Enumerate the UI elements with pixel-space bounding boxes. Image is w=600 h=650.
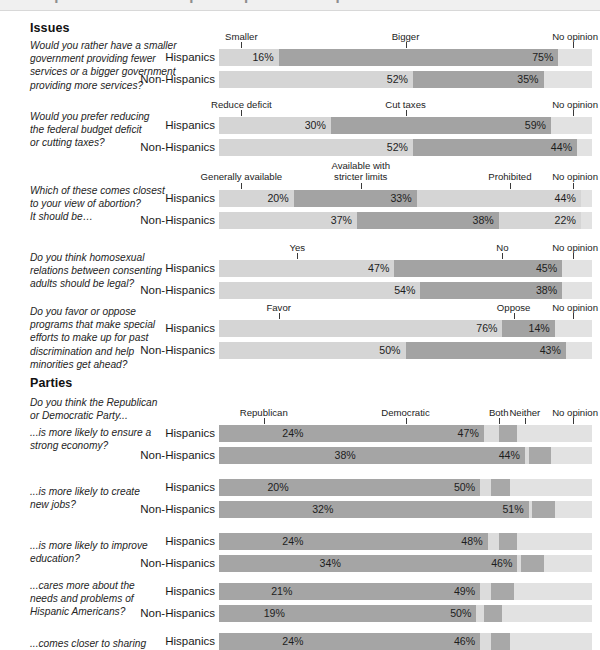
- column-header-label: Democratic: [381, 407, 430, 418]
- bar-segment: [517, 533, 592, 550]
- bar-value-label: 35%: [517, 71, 538, 88]
- group-label-hispanics: Hispanics: [75, 320, 215, 337]
- axis-tick: [514, 313, 515, 319]
- column-header-label: Generally available: [201, 171, 283, 182]
- bar-segment: [491, 479, 510, 496]
- stacked-bar: 24%47%: [219, 425, 592, 442]
- column-header-label: Bigger: [392, 31, 420, 42]
- stacked-bar: 20%50%: [219, 479, 592, 496]
- bar-segment: 52%: [219, 139, 413, 156]
- bar-segment: [510, 633, 592, 650]
- bar-segment: 47%: [219, 260, 394, 277]
- bar-segment: [577, 139, 592, 156]
- bar-segment: [532, 501, 554, 518]
- bar-segment: 19%: [219, 605, 290, 622]
- bar-segment: [544, 555, 592, 572]
- stacked-bar: 76%14%: [219, 320, 592, 337]
- bar-value-label: 52%: [387, 71, 408, 88]
- bar-segment: [480, 633, 491, 650]
- bar-segment: 32%: [219, 501, 338, 518]
- column-header-label: Both: [489, 407, 509, 418]
- bar-value-label: 38%: [335, 447, 356, 464]
- bar-value-label: 46%: [454, 633, 475, 650]
- parties-intro-question: Do you think the Republicanor Democratic…: [30, 396, 215, 422]
- bar-value-label: 38%: [473, 212, 494, 229]
- stacked-bar: 16%75%: [219, 49, 592, 66]
- axis-tick: [406, 418, 407, 424]
- bar-value-label: 14%: [528, 320, 549, 337]
- bar-segment: 45%: [394, 260, 562, 277]
- group-label-hispanics: Hispanics: [75, 49, 215, 66]
- stacked-bar: 37%38%22%: [219, 212, 592, 229]
- axis-tick: [406, 42, 407, 48]
- group-label-hispanics: Hispanics: [75, 425, 215, 442]
- stacked-bar: 20%33%44%: [219, 190, 592, 207]
- bar-value-label: 76%: [476, 320, 497, 337]
- column-header-label: No opinion: [552, 407, 598, 418]
- stacked-bar: 54%38%: [219, 282, 592, 299]
- bar-segment: 50%: [290, 605, 477, 622]
- bar-value-label: 33%: [390, 190, 411, 207]
- group-label-non-hispanics: Non-Hispanics: [75, 605, 215, 622]
- bar-segment: [502, 605, 592, 622]
- bar-value-label: 24%: [282, 633, 303, 650]
- bar-segment: 16%: [219, 49, 279, 66]
- bar-segment: [476, 605, 483, 622]
- bar-segment: 24%: [219, 425, 309, 442]
- section-title-parties: Parties: [30, 376, 72, 390]
- stacked-bar: 52%44%: [219, 139, 592, 156]
- bar-segment: [581, 190, 592, 207]
- axis-tick: [361, 183, 362, 189]
- column-header-label: Oppose: [497, 302, 531, 313]
- bar-segment: 33%: [294, 190, 417, 207]
- bar-segment: 34%: [219, 555, 346, 572]
- cropped-title-strip: Hispanic and non-Hispanic opinions compa…: [0, 0, 600, 11]
- column-header-label: Reduce deficit: [211, 99, 272, 110]
- axis-tick: [297, 253, 298, 259]
- bar-segment: [491, 633, 510, 650]
- bar-segment: [555, 501, 592, 518]
- stacked-bar: 47%45%: [219, 260, 592, 277]
- bar-value-label: 24%: [282, 533, 303, 550]
- bar-segment: [558, 49, 592, 66]
- bar-segment: [555, 320, 592, 337]
- bar-segment: 47%: [309, 425, 484, 442]
- group-label-non-hispanics: Non-Hispanics: [75, 555, 215, 572]
- bar-segment: 49%: [297, 583, 480, 600]
- axis-tick: [279, 313, 280, 319]
- bar-value-label: 45%: [536, 260, 557, 277]
- stacked-bar: 34%46%: [219, 555, 592, 572]
- bar-segment: 22%: [499, 212, 581, 229]
- question-text: Do you favor or opposeprograms that make…: [30, 305, 215, 371]
- column-header-label: No: [496, 242, 508, 253]
- group-label-hispanics: Hispanics: [75, 117, 215, 134]
- bar-segment: [562, 282, 592, 299]
- bar-segment: [480, 583, 491, 600]
- axis-tick: [573, 110, 574, 116]
- group-label-non-hispanics: Non-Hispanics: [75, 342, 215, 359]
- bar-segment: 52%: [219, 71, 413, 88]
- bar-segment: 44%: [361, 447, 525, 464]
- axis-tick: [573, 313, 574, 319]
- bar-segment: 48%: [309, 533, 488, 550]
- bar-segment: [480, 479, 491, 496]
- axis-tick: [499, 418, 500, 424]
- bar-value-label: 47%: [458, 425, 479, 442]
- bar-segment: [484, 425, 499, 442]
- bar-segment: 20%: [219, 190, 294, 207]
- question-line: or Democratic Party...: [30, 409, 215, 422]
- bar-value-label: 38%: [536, 282, 557, 299]
- axis-tick: [510, 183, 511, 189]
- bar-segment: 24%: [219, 533, 309, 550]
- column-header-label: Available withstricter limits: [331, 160, 390, 182]
- axis-tick: [573, 418, 574, 424]
- stacked-bar: 21%49%: [219, 583, 592, 600]
- bar-value-label: 32%: [312, 501, 333, 518]
- group-label-non-hispanics: Non-Hispanics: [75, 139, 215, 156]
- column-header-label: Republican: [240, 407, 288, 418]
- group-label-hispanics: Hispanics: [75, 633, 215, 650]
- bar-segment: 20%: [219, 479, 294, 496]
- bar-segment: 35%: [413, 71, 544, 88]
- bar-value-label: 54%: [394, 282, 415, 299]
